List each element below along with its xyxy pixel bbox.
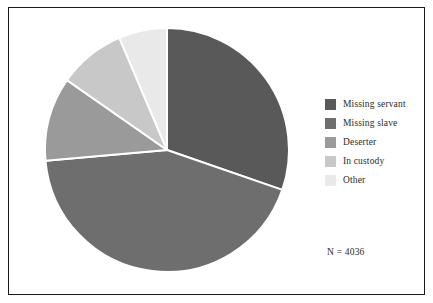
legend-swatch-icon xyxy=(325,118,336,129)
legend-item-label: In custody xyxy=(343,156,384,166)
legend-item-label: Other xyxy=(343,175,365,185)
legend-item-other[interactable]: Other xyxy=(325,171,421,189)
sample-size-annotation: N = 4036 xyxy=(327,247,365,257)
pie-chart-figure: Missing servantMissing slaveDeserterIn c… xyxy=(0,0,433,303)
pie-slices-group xyxy=(45,28,289,272)
legend-item-label: Deserter xyxy=(343,137,376,147)
legend-item-missing-slave[interactable]: Missing slave xyxy=(325,114,421,132)
legend-item-in-custody[interactable]: In custody xyxy=(325,152,421,170)
legend-swatch-icon xyxy=(325,156,336,167)
legend-swatch-icon xyxy=(325,137,336,148)
legend-item-label: Missing slave xyxy=(343,118,397,128)
legend-item-deserter[interactable]: Deserter xyxy=(325,133,421,151)
legend: Missing servantMissing slaveDeserterIn c… xyxy=(325,95,421,190)
legend-item-missing-servant[interactable]: Missing servant xyxy=(325,95,421,113)
legend-swatch-icon xyxy=(325,99,336,110)
legend-swatch-icon xyxy=(325,175,336,186)
legend-item-label: Missing servant xyxy=(343,99,406,109)
